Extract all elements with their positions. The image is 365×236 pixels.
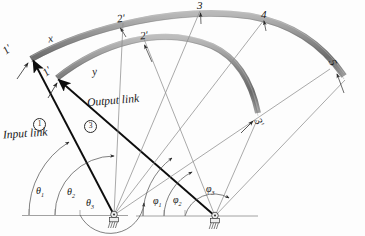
angle-label-theta3: θ3 [86, 198, 94, 210]
diagram-svg [0, 0, 365, 236]
angle-label-phi2: φ2 [173, 195, 182, 207]
figure-canvas: 1′ 2′ 3 4 5 1′ 2′ 3′ x y Output link Inp… [0, 0, 365, 236]
angle-label-phi3: φ3 [206, 184, 215, 196]
angle-label-theta1: θ1 [36, 186, 44, 198]
ground-pivot-B [209, 212, 219, 229]
input-rays [114, 11, 330, 215]
position-label-2-prime-inner: 2′ [139, 30, 148, 42]
angle-ticks [29, 209, 185, 216]
angle-label-phi1: φ1 [153, 196, 162, 208]
position-label-3-outer: 3 [197, 0, 203, 11]
position-label-4-outer: 4 [261, 9, 267, 20]
coupler-arc-outer [31, 11, 344, 79]
curve-label-y: y [91, 66, 97, 77]
ground-pivot-A [108, 211, 118, 228]
output-rays [144, 39, 345, 216]
position-label-2-prime-outer: 2′ [116, 13, 125, 25]
output-link-number-badge: 3 [84, 120, 97, 133]
input-angle-arcs [29, 142, 144, 233]
angle-label-theta2: θ2 [67, 187, 75, 199]
input-link-number-badge: 1 [33, 118, 46, 131]
